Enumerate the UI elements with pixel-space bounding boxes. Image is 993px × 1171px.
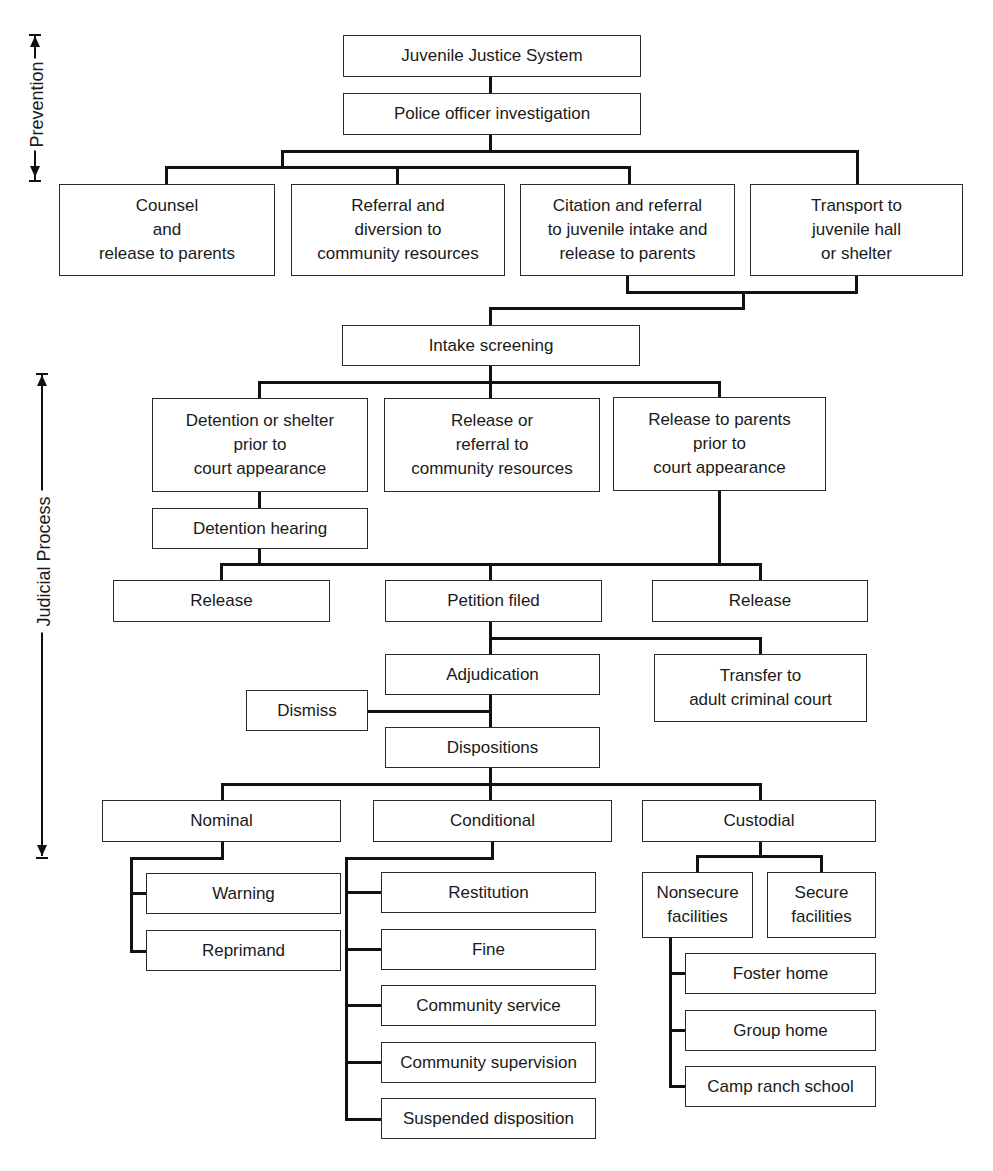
node-petition-filed: Petition filed [385,580,602,622]
connector [669,1085,685,1088]
connector [759,637,762,654]
node-restitution: Restitution [381,872,596,913]
connector [696,855,823,858]
prevention-label: Prevention [27,59,48,151]
connector [669,972,685,975]
connector [345,891,381,894]
node-custodial: Custodial [642,800,876,842]
judicial-bottom-tick [36,857,48,859]
node-release-to-parents: Release to parents prior to court appear… [613,397,826,491]
node-conditional: Conditional [373,800,612,842]
connector [696,855,699,872]
connector [130,892,146,895]
node-dismiss: Dismiss [246,690,368,731]
connector [489,77,492,93]
connector [489,307,492,325]
connector [130,950,146,953]
connector [345,1004,381,1007]
connector [345,857,348,1121]
node-adjudication: Adjudication [385,654,600,695]
arrow-up-icon [30,36,40,47]
connector [628,166,631,184]
node-police-officer-investigation: Police officer investigation [343,93,641,135]
node-group-home: Group home [685,1010,876,1051]
arrow-up-icon [37,375,47,386]
connector [130,857,133,953]
connector [345,1061,381,1064]
node-detention-hearing: Detention hearing [152,508,368,549]
connector [759,783,762,800]
prevention-bottom-tick [29,180,41,182]
connector [820,855,823,872]
connector [368,710,492,713]
connector [718,381,721,398]
judicial-process-label: Judicial Process [34,491,55,633]
connector [258,381,721,384]
connector [258,492,261,508]
connector [221,783,224,800]
node-fine: Fine [381,929,596,970]
node-citation-referral: Citation and referral to juvenile intake… [520,184,735,276]
connector [345,948,381,951]
node-reprimand: Reprimand [146,930,341,971]
node-community-service: Community service [381,985,596,1026]
node-juvenile-justice-system: Juvenile Justice System [343,35,641,77]
node-transfer-adult-court: Transfer to adult criminal court [654,654,867,722]
connector [221,783,762,786]
node-referral-diversion: Referral and diversion to community reso… [291,184,505,276]
connector [220,563,223,580]
connector [258,381,261,398]
connector [130,857,224,860]
node-transport-juvenile-hall: Transport to juvenile hall or shelter [750,184,963,276]
node-dispositions: Dispositions [385,727,600,768]
node-suspended-disposition: Suspended disposition [381,1098,596,1139]
connector [165,166,168,184]
node-intake-screening: Intake screening [342,325,640,366]
node-nonsecure-facilities: Nonsecure facilities [642,872,753,938]
connector [345,1118,381,1121]
node-camp-ranch-school: Camp ranch school [685,1066,876,1107]
arrow-down-icon [30,166,40,177]
connector [669,1029,685,1032]
node-release-left: Release [113,580,330,622]
node-secure-facilities: Secure facilities [767,872,876,938]
connector [396,166,399,184]
connector [669,938,672,1088]
node-foster-home: Foster home [685,953,876,994]
node-detention-shelter: Detention or shelter prior to court appe… [152,398,368,492]
connector [489,563,492,580]
connector [489,637,762,640]
node-release-referral: Release or referral to community resourc… [384,398,600,492]
connector [345,857,494,860]
node-warning: Warning [146,873,341,914]
connector [718,491,721,565]
node-release-right: Release [652,580,868,622]
arrow-down-icon [37,845,47,856]
connector [856,150,859,184]
connector [489,307,745,310]
connector [759,563,762,580]
node-counsel-release: Counsel and release to parents [59,184,275,276]
node-nominal: Nominal [102,800,341,842]
node-community-supervision: Community supervision [381,1042,596,1083]
connector [281,150,859,153]
